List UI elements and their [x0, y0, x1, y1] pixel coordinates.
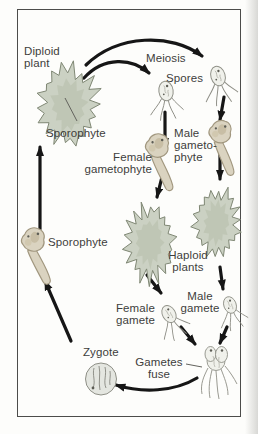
arrow-zygote-to-sporophyte [45, 281, 71, 341]
label-spores: Spores [166, 72, 203, 84]
spore-left-icon [151, 80, 184, 120]
fused-gametes-icon [201, 347, 237, 400]
life-cycle-figure: Diploid plant Meiosis Spores Sporophyte … [0, 0, 258, 434]
zygote-icon [86, 363, 117, 395]
arrow-spore-to-male-gametophyte [220, 97, 224, 120]
label-female-gamete: Female gamete [116, 302, 155, 326]
label-meiosis: Meiosis [146, 52, 186, 64]
label-male-gametophyte: Male gameto- phyte [174, 127, 217, 164]
arrow-plant-to-male-gamete [220, 267, 223, 289]
label-diploid-plant: Diploid plant [24, 45, 60, 69]
label-male-gamete: Male gamete [180, 290, 220, 314]
arrow-female-gamete-to-fusion [181, 327, 195, 344]
sporophyte-germling-icon [16, 226, 57, 284]
haploid-plant-right [191, 187, 242, 257]
label-haploid-plants: Haploid plants [165, 249, 211, 273]
label-sporophyte-left: Sporophyte [48, 236, 108, 248]
page-edge-shadow [245, 0, 258, 434]
label-zygote: Zygote [83, 346, 119, 358]
label-gametes-fuse: Gametes fuse [132, 356, 186, 380]
label-female-gametophyte: Female gametophyte [84, 151, 152, 175]
label-sporophyte-top: Sporophyte [46, 127, 106, 139]
haploid-plant-left [122, 202, 176, 287]
leader-gametes-fuse-label [186, 364, 202, 367]
arrow-male-gamete-to-fusion [220, 327, 227, 343]
spore-right-icon [201, 63, 239, 108]
